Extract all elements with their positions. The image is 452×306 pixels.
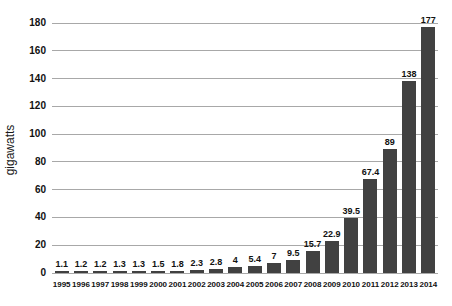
bar-2005 (248, 266, 262, 274)
gridline-160 (52, 50, 438, 51)
bar-1995 (55, 271, 69, 273)
gridline-100 (52, 134, 438, 135)
bar-2003 (209, 269, 223, 273)
bar-value-label-2009: 22.9 (316, 229, 348, 239)
bar-chart-figure: gigawatts 1.11.21.21.31.31.51.82.32.845.… (0, 0, 452, 306)
y-tick-label-180: 180 (16, 17, 46, 29)
y-tick-label-80: 80 (16, 156, 46, 168)
bar-2014 (421, 27, 435, 273)
bar-1998 (113, 271, 127, 273)
bar-2001 (170, 271, 184, 274)
bar-value-label-2008: 15.7 (297, 239, 329, 249)
gridline-60 (52, 189, 438, 190)
plot-area: 1.11.21.21.31.31.51.82.32.845.479.515.72… (52, 23, 438, 273)
bar-value-label-2010: 39.5 (335, 206, 367, 216)
bar-2004 (228, 267, 242, 273)
bar-2006 (267, 263, 281, 273)
gridline-20 (52, 245, 438, 246)
gridline-180 (52, 23, 438, 24)
y-tick-label-0: 0 (16, 267, 46, 279)
gridline-80 (52, 161, 438, 162)
gridline-40 (52, 217, 438, 218)
bar-value-label-2011: 67.4 (354, 167, 386, 177)
y-tick-label-100: 100 (16, 128, 46, 140)
y-tick-label-120: 120 (16, 100, 46, 112)
y-tick-label-20: 20 (16, 239, 46, 251)
bar-2011 (363, 179, 377, 273)
y-tick-label-60: 60 (16, 184, 46, 196)
bar-value-label-2013: 138 (393, 69, 425, 79)
y-tick-label-160: 160 (16, 45, 46, 57)
y-tick-label-40: 40 (16, 211, 46, 223)
bar-1997 (93, 271, 107, 273)
gridline-140 (52, 78, 438, 79)
bar-2002 (190, 270, 204, 273)
y-tick-label-140: 140 (16, 73, 46, 85)
bar-2000 (151, 271, 165, 273)
bar-value-label-2014: 177 (412, 15, 444, 25)
x-tick-label-2014: 2014 (416, 280, 440, 290)
bar-2013 (402, 81, 416, 273)
bar-value-label-2007: 9.5 (277, 248, 309, 258)
bar-2010 (344, 218, 358, 273)
bar-value-label-2012: 89 (374, 137, 406, 147)
gridline-120 (52, 106, 438, 107)
gridline-0 (52, 273, 438, 274)
bar-1996 (74, 271, 88, 273)
bar-1999 (132, 271, 146, 273)
bar-2007 (286, 260, 300, 273)
